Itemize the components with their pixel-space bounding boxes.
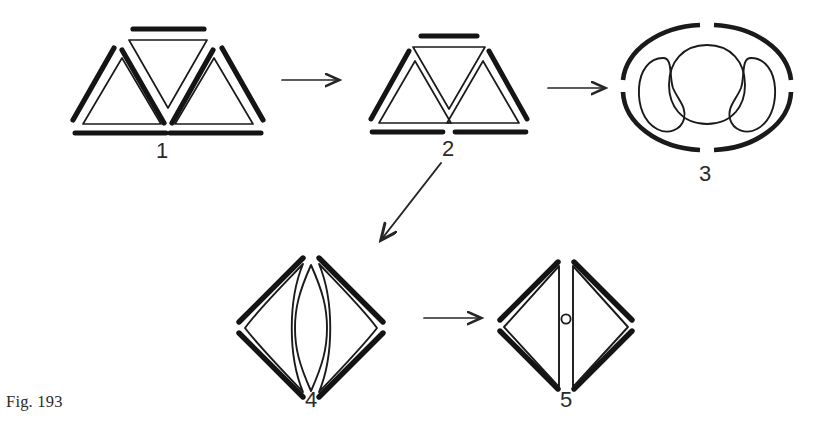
stage4-central-lens [295, 265, 327, 391]
stage-4-group [239, 258, 383, 397]
stage-3-group [623, 25, 791, 150]
stage5-heavy-upper-left [500, 262, 558, 320]
stage-label-1: 1 [156, 138, 168, 164]
stage3-lobe-center [669, 45, 745, 124]
stage1-triangle-right [175, 58, 253, 124]
figure-illustration [0, 0, 826, 445]
stage1-triangle-center-inverted [129, 40, 207, 108]
stage1-triangle-left [83, 58, 161, 124]
stage2-heavy-left-slope [371, 51, 409, 119]
stage4-heavy-lower-right [319, 333, 383, 397]
stage5-triangle-left [504, 266, 559, 387]
stage1-heavy-right-slope [222, 48, 263, 120]
stage4-heavy-lower-left [239, 333, 303, 397]
stage1-heavy-left-slope [73, 48, 114, 120]
stage2-triangle-left [379, 61, 451, 123]
stage3-arc-top-right [714, 25, 791, 80]
stage-2-group [371, 36, 527, 132]
stage5-heavy-lower-left [500, 331, 558, 389]
stage3-lobe-left [639, 58, 685, 132]
stage5-heavy-lower-right [574, 331, 632, 389]
stage-1-group [73, 29, 263, 133]
stage5-triangle-right [573, 266, 628, 387]
stage3-arc-top-left [623, 25, 700, 80]
stage3-lobe-right [729, 58, 775, 132]
figure-caption: Fig. 193 [6, 392, 63, 412]
stage5-center-dot [561, 314, 570, 323]
arrow-2-to-4 [381, 163, 441, 240]
stage-label-5: 5 [560, 387, 572, 413]
stage2-triangle-right [447, 61, 519, 123]
stage1-heavy-center-left [122, 50, 164, 123]
stage2-triangle-center-inverted [413, 47, 485, 109]
stage2-heavy-right-slope [489, 51, 527, 119]
stage5-heavy-upper-right [574, 262, 632, 320]
stage-label-2: 2 [442, 136, 454, 162]
stage-5-group [500, 262, 632, 389]
stage4-heavy-upper-right [319, 258, 383, 322]
stage4-heavy-upper-left [239, 258, 303, 322]
stage-label-4: 4 [305, 387, 317, 413]
stage-label-3: 3 [699, 161, 711, 187]
stage1-heavy-center-right [172, 50, 213, 123]
